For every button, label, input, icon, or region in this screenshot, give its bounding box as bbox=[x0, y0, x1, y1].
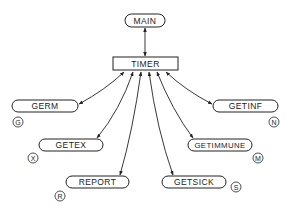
node-getsick: GETSICK S bbox=[162, 176, 241, 192]
edges bbox=[79, 28, 212, 175]
node-timer: TIMER bbox=[113, 57, 178, 70]
node-report-tag: R bbox=[57, 193, 62, 200]
node-main: MAIN bbox=[125, 14, 165, 27]
node-getsick-label: GETSICK bbox=[174, 177, 214, 187]
node-getimmune: GETIMMUNE M bbox=[188, 139, 263, 163]
node-getex-tag: X bbox=[31, 155, 36, 162]
node-germ-tag: G bbox=[15, 119, 20, 126]
edge-timer-getsick bbox=[149, 72, 173, 175]
call-graph-diagram: MAIN TIMER GERM G GETINF N GETEX X GETIM… bbox=[0, 0, 292, 212]
node-getinf-tag: N bbox=[271, 119, 276, 126]
node-main-label: MAIN bbox=[134, 16, 157, 26]
edge-timer-getimmune bbox=[157, 72, 193, 138]
edge-timer-getex bbox=[97, 72, 133, 138]
node-getimmune-tag: M bbox=[255, 155, 261, 162]
node-germ: GERM G bbox=[12, 100, 78, 127]
node-getimmune-label: GETIMMUNE bbox=[194, 141, 245, 150]
node-getex-label: GETEX bbox=[56, 140, 87, 150]
edge-timer-getinf bbox=[166, 72, 212, 104]
node-report: REPORT R bbox=[55, 176, 129, 201]
edge-timer-germ bbox=[79, 72, 124, 104]
node-germ-label: GERM bbox=[31, 101, 58, 111]
node-timer-label: TIMER bbox=[131, 59, 159, 69]
node-getex: GETEX X bbox=[28, 139, 103, 163]
node-getinf-label: GETINF bbox=[229, 101, 263, 111]
node-report-label: REPORT bbox=[79, 177, 117, 187]
node-getinf: GETINF N bbox=[213, 100, 279, 127]
node-getsick-tag: S bbox=[234, 184, 239, 191]
edge-timer-report bbox=[120, 72, 141, 175]
